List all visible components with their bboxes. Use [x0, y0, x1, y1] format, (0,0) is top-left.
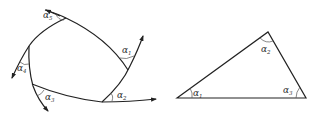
diagram-canvas: α5 α1 α2 α3 α4 α1 α2 α3	[0, 0, 316, 118]
tri-label-alpha3: α3	[283, 85, 293, 96]
arc-alpha3	[37, 90, 44, 96]
arc-alpha1	[120, 56, 134, 59]
arc-tri-alpha2	[260, 38, 273, 42]
label-alpha2: α2	[117, 90, 127, 101]
edge-top	[45, 10, 128, 70]
tri-label-alpha1: α1	[193, 88, 203, 99]
label-alpha1: α1	[122, 45, 132, 56]
arc-tri-alpha1	[190, 88, 192, 98]
label-alpha3: α3	[45, 92, 55, 103]
arc-tri-alpha3	[296, 87, 300, 98]
left-angle-arcs	[20, 14, 134, 101]
curved-polygon	[12, 10, 156, 111]
tri-label-alpha2: α2	[261, 44, 271, 55]
triangle: α1 α2 α3	[177, 32, 306, 99]
